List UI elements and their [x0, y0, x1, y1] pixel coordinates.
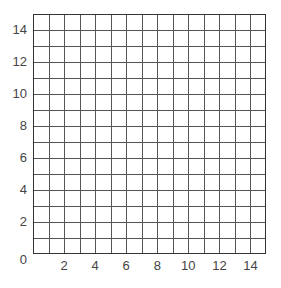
grid-hline: [34, 142, 265, 143]
x-tick-label: 14: [238, 259, 262, 273]
y-tick-label: 12: [0, 55, 27, 69]
x-tick-label: 2: [52, 259, 76, 273]
grid-vline: [111, 15, 112, 253]
grid-hline: [34, 174, 265, 175]
grid-hline: [34, 190, 265, 191]
grid-hline: [34, 110, 265, 111]
grid-hline: [34, 78, 265, 79]
grid-vline: [157, 15, 158, 253]
grid-vline: [173, 15, 174, 253]
grid-vline: [95, 15, 96, 253]
grid-hline: [34, 46, 265, 47]
grid-hline: [34, 206, 265, 207]
grid-hline: [34, 238, 265, 239]
y-tick-label: 2: [0, 215, 27, 229]
x-tick-label: 8: [145, 259, 169, 273]
grid-hline: [34, 62, 265, 63]
y-tick-label: 6: [0, 151, 27, 165]
coordinate-grid: [33, 14, 266, 254]
grid-vline: [80, 15, 81, 253]
y-tick-label: 8: [0, 119, 27, 133]
grid-vline: [142, 15, 143, 253]
grid-vline: [188, 15, 189, 253]
grid-hline: [34, 222, 265, 223]
y-tick-label: 4: [0, 183, 27, 197]
x-tick-label: 10: [176, 259, 200, 273]
x-tick-label: 12: [207, 259, 231, 273]
grid-vline: [235, 15, 236, 253]
grid-vline: [49, 15, 50, 253]
grid-vline: [204, 15, 205, 253]
grid-hline: [34, 158, 265, 159]
x-tick-label: 4: [83, 259, 107, 273]
grid-vline: [126, 15, 127, 253]
x-tick-label: 6: [114, 259, 138, 273]
y-tick-label: 14: [0, 23, 27, 37]
y-tick-label: 10: [0, 87, 27, 101]
grid-hline: [34, 126, 265, 127]
grid-vline: [64, 15, 65, 253]
grid-hline: [34, 94, 265, 95]
grid-hline: [34, 30, 265, 31]
grid-vline: [250, 15, 251, 253]
grid-vline: [219, 15, 220, 253]
origin-label: 0: [0, 253, 27, 267]
